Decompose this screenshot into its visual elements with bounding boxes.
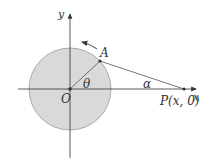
point-a-label: A — [99, 46, 109, 60]
rod-ap — [100, 61, 184, 89]
y-axis-label: y — [57, 8, 65, 21]
point-o — [68, 87, 72, 91]
theta-label: θ — [83, 77, 91, 91]
origin-label: O — [61, 92, 71, 106]
crank-diagram: y x O A P(x, 0) θ α — [0, 0, 210, 168]
point-p-label: P(x, 0) — [159, 94, 200, 108]
alpha-label: α — [143, 77, 151, 91]
rotation-arrow-icon — [82, 42, 97, 49]
point-p — [182, 87, 185, 90]
